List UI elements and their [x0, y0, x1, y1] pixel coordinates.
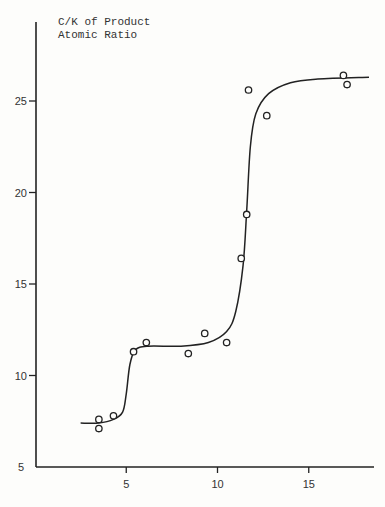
x-tick-label: 15: [303, 478, 315, 490]
data-point: [110, 413, 116, 419]
data-point: [96, 425, 102, 431]
y-ticks: 510152025: [15, 95, 36, 473]
data-point: [238, 255, 244, 261]
y-tick-label: 10: [15, 370, 27, 382]
data-point: [344, 81, 350, 87]
y-axis-label-line1: C/K of Product: [58, 16, 150, 28]
y-tick-label: 15: [15, 278, 27, 290]
x-tick-label: 5: [123, 478, 129, 490]
y-tick-label: 20: [15, 187, 27, 199]
data-point: [245, 87, 251, 93]
chart: 510152025 51015 C/K of Product Atomic Ra…: [0, 0, 385, 507]
y-axis-label: C/K of Product Atomic Ratio: [58, 16, 150, 41]
y-tick-label: 5: [18, 461, 24, 473]
data-point: [264, 112, 270, 118]
data-point: [223, 339, 229, 345]
y-axis-label-line2: Atomic Ratio: [58, 29, 137, 41]
axes: [36, 22, 374, 467]
x-ticks: 51015: [123, 467, 315, 490]
data-point: [185, 350, 191, 356]
data-point: [202, 330, 208, 336]
x-tick-label: 10: [211, 478, 223, 490]
data-point: [143, 339, 149, 345]
data-point: [244, 211, 250, 217]
data-point: [340, 72, 346, 78]
data-points: [96, 72, 351, 432]
data-point: [96, 416, 102, 422]
fitted-curve: [81, 77, 369, 423]
y-tick-label: 25: [15, 95, 27, 107]
data-point: [130, 349, 136, 355]
